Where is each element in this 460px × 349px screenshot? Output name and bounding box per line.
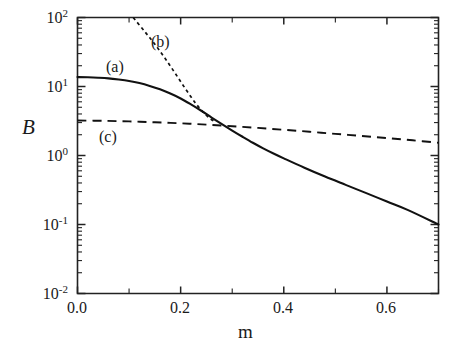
axes-frame — [78, 18, 439, 294]
plot-canvas — [0, 0, 460, 349]
y-tick-label: 102 — [10, 8, 68, 26]
series-line-c — [78, 120, 439, 142]
curve-label-b: (b) — [151, 34, 170, 50]
y-tick-mantissa: 10 — [47, 9, 63, 26]
y-tick-exponent: 2 — [63, 7, 69, 19]
series-line-a — [78, 77, 439, 224]
y-tick-exponent: -2 — [59, 283, 68, 295]
y-tick-label: 10-1 — [10, 215, 68, 233]
x-tick-label: 0.6 — [358, 300, 414, 316]
curve-label-a: (a) — [106, 59, 124, 75]
y-tick-exponent: 0 — [63, 145, 69, 157]
y-tick-mantissa: 10 — [47, 78, 63, 95]
y-tick-exponent: -1 — [59, 214, 68, 226]
x-axis-title: m — [238, 322, 253, 341]
x-tick-label: 0.0 — [49, 300, 105, 316]
y-tick-label: 100 — [10, 146, 68, 164]
x-tick-label: 0.2 — [152, 300, 208, 316]
axis-ticks — [78, 18, 439, 294]
chart-figure: 102 101 100 10-1 10-2 0.0 0.2 0.4 0.6 B … — [0, 0, 460, 349]
y-tick-mantissa: 10 — [47, 147, 63, 164]
series-line-b — [133, 18, 216, 123]
x-tick-label: 0.4 — [255, 300, 311, 316]
plot-frame — [78, 18, 439, 294]
y-tick-label: 101 — [10, 77, 68, 95]
y-tick-exponent: 1 — [63, 76, 69, 88]
y-axis-title: B — [22, 117, 35, 138]
y-tick-mantissa: 10 — [43, 216, 59, 233]
curve-label-c: (c) — [99, 129, 117, 145]
